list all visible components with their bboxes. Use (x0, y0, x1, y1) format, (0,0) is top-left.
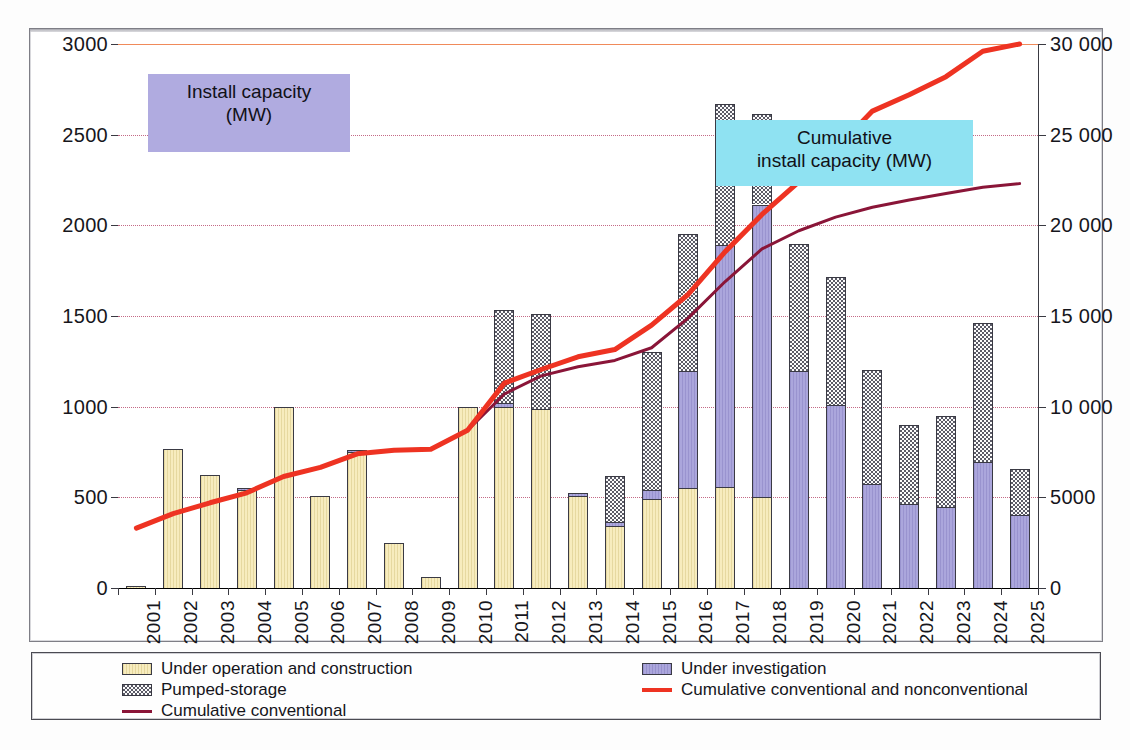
x-tick (339, 588, 340, 595)
x-tick (486, 588, 487, 595)
legend-swatch-op-icon (122, 663, 152, 675)
x-axis-label-2001: 2001 (144, 600, 163, 644)
x-tick (560, 588, 561, 595)
x-axis-label-2002: 2002 (181, 600, 200, 644)
y-tick-left-1000 (111, 407, 118, 408)
legend-swatch-linered-icon (642, 688, 672, 692)
x-axis-label-2006: 2006 (328, 600, 347, 644)
x-axis-label-2005: 2005 (292, 600, 311, 644)
y-axis-right-label: 25 000 (1050, 125, 1130, 145)
legend-swatch-inv-icon (642, 663, 672, 675)
x-axis-label-2008: 2008 (402, 600, 421, 644)
x-axis-label-2004: 2004 (255, 600, 274, 644)
x-tick (118, 588, 119, 595)
y-axis-left-label: 1500 (34, 306, 108, 326)
x-axis-label-2021: 2021 (880, 600, 899, 644)
y-axis-right-label: 10 000 (1050, 397, 1130, 417)
x-axis-label-2014: 2014 (623, 600, 642, 644)
y-axis-right-label: 0 (1050, 578, 1130, 598)
chart-frame: 050010001500200025003000 0500010 00015 0… (29, 28, 1103, 642)
x-tick (376, 588, 377, 595)
legend-item-label: Pumped-storage (161, 681, 287, 699)
x-tick (744, 588, 745, 595)
x-tick (1001, 588, 1002, 595)
x-tick (780, 588, 781, 595)
legend-item-label: Under investigation (681, 660, 827, 678)
x-tick (670, 588, 671, 595)
annotation-install-capacity-line1: Install capacity (158, 80, 340, 103)
x-tick (633, 588, 634, 595)
x-axis-label-2024: 2024 (991, 600, 1010, 644)
y-axis-left-label: 0 (34, 578, 108, 598)
y-tick-right-1500 (1038, 316, 1046, 317)
x-axis-label-2017: 2017 (733, 600, 752, 644)
y-axis-left-label: 1000 (34, 397, 108, 417)
chart-page: 050010001500200025003000 0500010 00015 0… (0, 0, 1130, 750)
y-axis-right-line (1038, 44, 1039, 588)
y-tick-right-2500 (1038, 135, 1046, 136)
annotation-cumulative-install-capacity: Cumulative install capacity (MW) (716, 120, 973, 186)
legend-item[interactable]: Pumped-storage (122, 680, 412, 699)
x-tick (228, 588, 229, 595)
x-tick (596, 588, 597, 595)
gridline-0 (118, 588, 1038, 589)
x-axis-label-2020: 2020 (844, 600, 863, 644)
x-tick (412, 588, 413, 595)
x-axis-label-2015: 2015 (660, 600, 679, 644)
x-axis-label-2009: 2009 (439, 600, 458, 644)
legend-swatch-line-icon (122, 710, 152, 713)
legend-item[interactable]: Under investigation (642, 659, 1028, 678)
x-axis-label-2010: 2010 (476, 600, 495, 644)
x-tick (302, 588, 303, 595)
x-tick (265, 588, 266, 595)
y-axis-right-label: 20 000 (1050, 215, 1130, 235)
y-axis-right-label: 15 000 (1050, 306, 1130, 326)
y-tick-left-2000 (111, 225, 118, 226)
x-tick (891, 588, 892, 595)
legend-column-left: Under operation and constructionPumped-s… (122, 659, 412, 722)
legend-column-right: Under investigationCumulative convention… (642, 659, 1028, 701)
y-tick-left-2500 (111, 135, 118, 136)
x-tick (523, 588, 524, 595)
x-tick (155, 588, 156, 595)
x-tick (964, 588, 965, 595)
legend: Under operation and constructionPumped-s… (31, 652, 1101, 720)
legend-item[interactable]: Under operation and construction (122, 659, 412, 678)
y-axis-left-label: 2000 (34, 215, 108, 235)
y-tick-right-2000 (1038, 225, 1046, 226)
x-tick (854, 588, 855, 595)
x-axis-label-2019: 2019 (807, 600, 826, 644)
y-tick-left-0 (111, 588, 118, 589)
annotation-install-capacity: Install capacity (MW) (148, 74, 350, 152)
legend-item-label: Cumulative conventional and nonconventio… (681, 681, 1028, 699)
x-axis-label-2012: 2012 (549, 600, 568, 644)
x-tick-end (1038, 588, 1039, 595)
x-axis-label-2016: 2016 (696, 600, 715, 644)
x-axis-label-2013: 2013 (586, 600, 605, 644)
legend-item-label: Cumulative conventional (161, 702, 346, 720)
y-tick-left-3000 (111, 44, 118, 45)
x-axis-label-2007: 2007 (365, 600, 384, 644)
annotation-cumulative-line1: Cumulative (726, 126, 963, 149)
y-tick-right-500 (1038, 497, 1046, 498)
y-tick-left-500 (111, 497, 118, 498)
x-axis-label-2018: 2018 (770, 600, 789, 644)
y-tick-right-1000 (1038, 407, 1046, 408)
x-axis-label-2025: 2025 (1028, 600, 1047, 644)
y-axis-left-label: 3000 (34, 34, 108, 54)
x-tick (449, 588, 450, 595)
legend-item[interactable]: Cumulative conventional (122, 701, 412, 720)
x-tick (928, 588, 929, 595)
x-axis-label-2003: 2003 (218, 600, 237, 644)
y-axis-left-label: 2500 (34, 125, 108, 145)
annotation-cumulative-line2: install capacity (MW) (726, 149, 963, 172)
x-axis-label-2022: 2022 (917, 600, 936, 644)
y-tick-right-0 (1038, 588, 1046, 589)
frame-top-shade (30, 29, 1102, 32)
legend-item[interactable]: Cumulative conventional and nonconventio… (642, 680, 1028, 699)
x-tick (817, 588, 818, 595)
y-axis-left-label: 500 (34, 487, 108, 507)
legend-item-label: Under operation and construction (161, 660, 412, 678)
x-axis-label-2023: 2023 (954, 600, 973, 644)
plot-area: 050010001500200025003000 0500010 00015 0… (118, 44, 1038, 588)
